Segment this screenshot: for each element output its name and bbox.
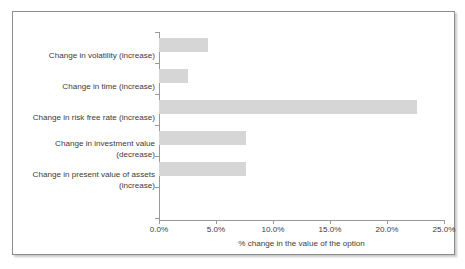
value-tick [444,220,445,224]
value-tick-label: 5.0% [186,225,246,234]
chart-frame: Change in volatility (increase) Change i… [12,11,455,255]
bar-time [159,69,188,83]
category-label-3: Change in investment value (decrease) [17,139,155,160]
category-label-4: Change in present value of assets (incre… [17,170,155,191]
value-tick-label: 10.0% [243,225,303,234]
plot-area [159,32,421,220]
category-label-1: Change in time (increase) [17,82,155,93]
value-tick [216,220,217,224]
bar-present-value-assets [159,162,246,176]
value-tick [330,220,331,224]
value-tick-label: 25.0% [414,225,465,234]
value-tick-label: 0.0% [129,225,189,234]
value-tick [159,220,160,224]
value-tick [273,220,274,224]
bar-volatility [159,38,208,52]
value-axis-title: % change in the value of the option [159,239,444,248]
category-axis-labels: Change in volatility (increase) Change i… [13,32,155,221]
bar-risk-free-rate [159,100,417,114]
value-tick [387,220,388,224]
value-tick-label: 20.0% [357,225,417,234]
value-axis-line [159,220,444,221]
category-label-2: Change in risk free rate (increase) [17,113,155,124]
bar-investment-value [159,131,246,145]
category-label-0: Change in volatility (increase) [17,51,155,62]
value-tick-label: 15.0% [300,225,360,234]
